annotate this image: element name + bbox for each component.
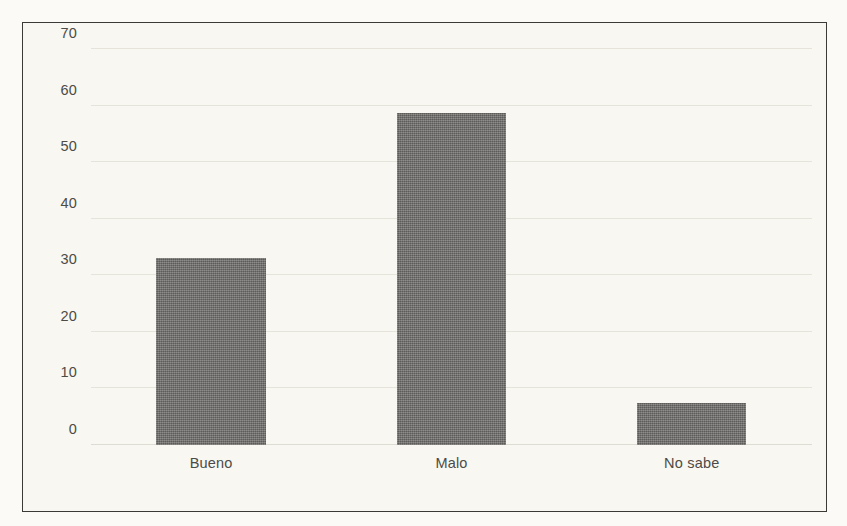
bar-column	[637, 49, 746, 445]
x-axis: BuenoMaloNo sabe	[91, 455, 812, 489]
y-axis-tick-label: 20	[60, 308, 77, 324]
plot-area	[91, 49, 812, 445]
bar-slot	[572, 49, 812, 445]
y-axis-tick-label: 40	[60, 195, 77, 211]
bar	[156, 258, 265, 445]
bar-slot	[331, 49, 571, 445]
y-axis-tick-label: 60	[60, 82, 77, 98]
x-axis-category-label: No sabe	[572, 455, 812, 471]
y-axis-tick-label: 10	[60, 364, 77, 380]
bar-slot	[91, 49, 331, 445]
y-axis-tick-label: 50	[60, 138, 77, 154]
y-axis-tick-label: 0	[69, 421, 77, 437]
bar-series	[91, 49, 812, 445]
bar-column	[156, 49, 265, 445]
y-axis-tick-label: 70	[60, 25, 77, 41]
x-axis-category-label: Malo	[331, 455, 571, 471]
chart-figure-frame: 010203040506070 BuenoMaloNo sabe	[22, 22, 827, 512]
bar	[397, 113, 506, 445]
x-axis-category-label: Bueno	[91, 455, 331, 471]
y-axis-tick-label: 30	[60, 251, 77, 267]
bar	[637, 403, 746, 445]
bar-column	[397, 49, 506, 445]
y-axis: 010203040506070	[23, 49, 85, 445]
page-canvas: 010203040506070 BuenoMaloNo sabe	[0, 0, 847, 526]
